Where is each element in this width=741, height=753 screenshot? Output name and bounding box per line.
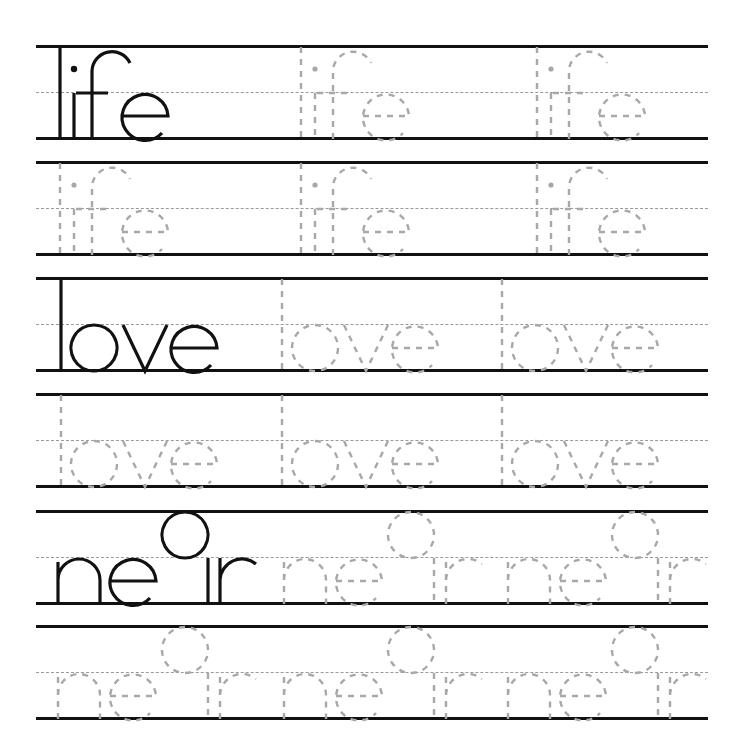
practice-row-life-model: lifelifelife [36, 46, 708, 141]
trace-word: near [498, 626, 718, 722]
trace-word: near [274, 626, 494, 722]
trace-word: love [490, 278, 672, 374]
practice-row-love-trace: lovelovelove [36, 394, 708, 489]
word-label: love [490, 490, 491, 491]
word-label: life [289, 258, 290, 259]
word-label: love [49, 374, 50, 375]
word-label: near [498, 722, 499, 723]
word-label: love [49, 490, 50, 491]
model-word: near [48, 511, 268, 607]
word-label: near [48, 607, 49, 608]
word-label: near [274, 722, 275, 723]
trace-word: life [289, 46, 423, 142]
trace-word: near [48, 626, 268, 722]
trace-word: life [48, 162, 182, 258]
trace-word: life [289, 162, 423, 258]
practice-row-life-trace: lifelifelife [36, 162, 708, 257]
word-label: life [48, 142, 49, 143]
trace-word: love [270, 394, 452, 490]
trace-word: love [490, 394, 672, 490]
trace-word: life [525, 162, 659, 258]
model-word: life [48, 46, 182, 142]
word-label: life [48, 258, 49, 259]
word-label: love [490, 374, 491, 375]
practice-row-near-trace: nearnearnear [36, 626, 708, 721]
word-label: life [525, 142, 526, 143]
word-label: life [289, 142, 290, 143]
trace-word: love [49, 394, 231, 490]
word-label: life [525, 258, 526, 259]
word-label: near [274, 607, 275, 608]
word-label: near [48, 722, 49, 723]
word-label: love [270, 374, 271, 375]
trace-word: near [274, 511, 494, 607]
worksheet-title: Handwriting tracing worksheet [0, 0, 1, 1]
trace-word: near [498, 511, 718, 607]
word-label: love [270, 490, 271, 491]
trace-word: life [525, 46, 659, 142]
practice-row-near-model: nearnearnear [36, 511, 708, 606]
word-label: near [498, 607, 499, 608]
trace-word: love [270, 278, 452, 374]
worksheet: Handwriting tracing worksheet lifelifeli… [0, 0, 741, 753]
practice-row-love-model: lovelovelove [36, 278, 708, 373]
model-word: love [49, 278, 231, 374]
